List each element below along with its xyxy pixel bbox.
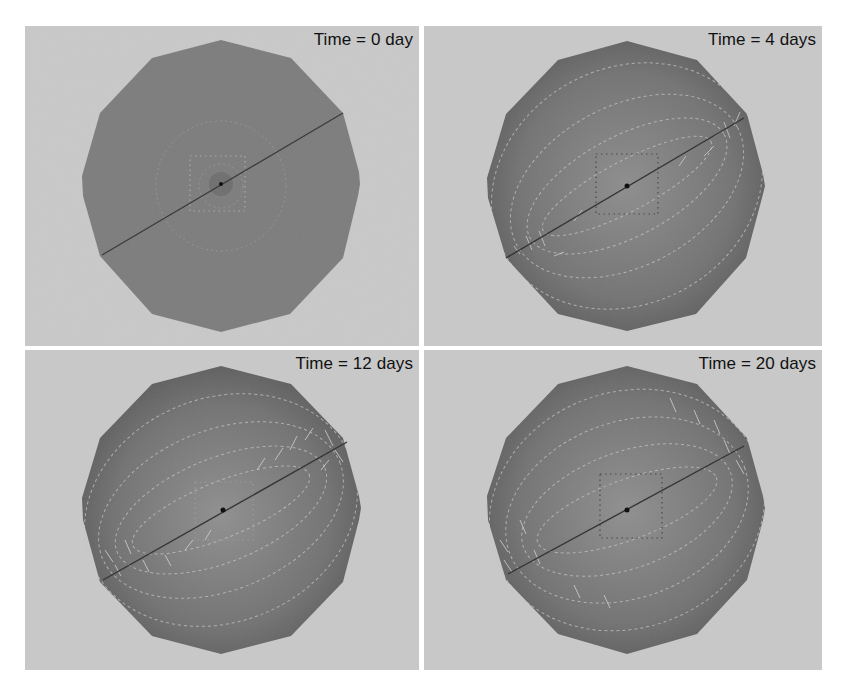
center-point [625,508,630,513]
panel-time-12: Time = 12 days [25,350,419,670]
time-label: Time = 12 days [296,354,413,374]
dodecagon-model-0 [25,26,419,346]
dodecagon-model-12 [25,350,419,670]
center-point [219,182,223,186]
time-label: Time = 4 days [708,30,816,50]
time-label: Time = 20 days [699,354,816,374]
panel-time-4: Time = 4 days [424,26,822,346]
dodecagon-model-20 [424,350,822,670]
panel-time-20: Time = 20 days [424,350,822,670]
panel-time-0: Time = 0 day [25,26,419,346]
dodecagon-model-4 [424,26,822,346]
time-label: Time = 0 day [314,30,413,50]
center-point [221,508,226,513]
center-point [625,184,630,189]
